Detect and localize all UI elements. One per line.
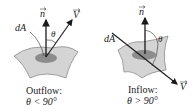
- inflow-angle-label: θ: [158, 34, 163, 44]
- outflow-panel: n V dA θ Outflow: θ < 90°: [14, 8, 81, 107]
- outflow-velocity-label: V: [73, 9, 81, 20]
- outflow-angle-arc: [46, 40, 56, 43]
- outflow-caption: Outflow:: [26, 85, 62, 96]
- outflow-normal-label: n: [40, 8, 45, 19]
- inflow-velocity-label: V: [180, 81, 188, 92]
- inflow-panel: n V dA θ Inflow: θ > 90°: [104, 6, 188, 106]
- diagram-canvas: n V dA θ Outflow: θ < 90° n V dA θ Inflo…: [0, 0, 196, 112]
- outflow-condition: θ < 90°: [26, 96, 57, 107]
- inflow-area-label: dA: [104, 33, 116, 44]
- outflow-angle-label: θ: [51, 29, 56, 39]
- inflow-condition: θ > 90°: [127, 95, 158, 106]
- outflow-area-label: dA: [15, 22, 27, 33]
- inflow-normal-label: n: [139, 6, 144, 17]
- inflow-caption: Inflow:: [128, 84, 157, 95]
